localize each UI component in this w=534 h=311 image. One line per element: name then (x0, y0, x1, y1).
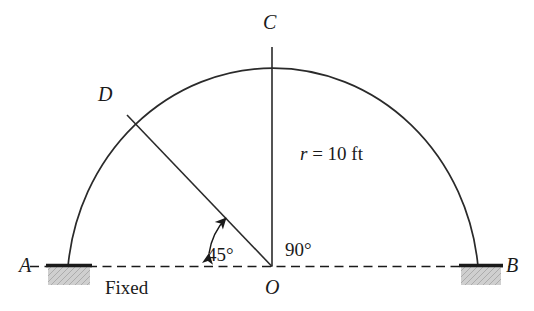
diagram-canvas (0, 0, 534, 311)
support-a (46, 266, 92, 286)
label-radius-value: r = 10 ft (300, 144, 363, 163)
label-point-b: B (506, 255, 518, 275)
label-point-d: D (98, 84, 112, 104)
arch-diagram: A B C D O 45° 90° Fixed r = 10 ft (0, 0, 534, 311)
label-point-a: A (19, 255, 31, 275)
radius-line-od (127, 115, 272, 267)
support-b-hatch (461, 267, 501, 285)
label-angle-90: 90° (285, 240, 312, 259)
label-point-c: C (263, 12, 276, 32)
label-fixed-support: Fixed (105, 278, 148, 297)
radius-measurement: = 10 ft (312, 143, 363, 164)
label-point-o: O (265, 277, 279, 297)
label-angle-45: 45° (207, 245, 234, 264)
arch-curve (68, 68, 478, 266)
support-a-hatch (48, 267, 90, 285)
support-b (459, 266, 503, 286)
